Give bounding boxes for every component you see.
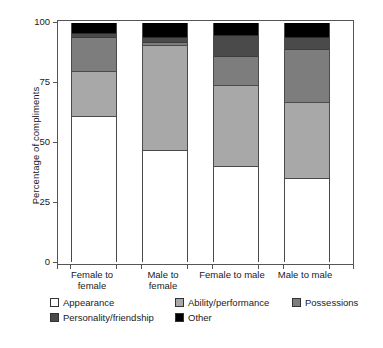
chart-legend: Appearance Ability/performance Possessio… [0,297,383,333]
segment-possessions [285,49,329,102]
segment-ability-performance [72,71,116,116]
legend-item-personality-friendship[interactable]: Personality/friendship [50,312,154,323]
bar-female-to-male[interactable] [213,23,259,262]
legend-swatch-other-icon [175,313,184,322]
y-tick-label-100: 100 [34,16,50,27]
x-label-male-to-female: Male to female [126,269,200,291]
x-label-line-1: Female to male [192,269,272,280]
bar-male-to-female[interactable] [142,23,188,262]
x-label-male-to-male: Male to male [265,269,345,280]
y-tick-label-25: 25 [39,196,50,207]
x-label-line-1: Male to male [265,269,345,280]
bars-container [58,23,353,262]
segment-appearance [214,166,258,262]
y-tick-100: 100 [0,22,57,23]
legend-label-possessions: Possessions [305,297,358,308]
segment-possessions [72,37,116,70]
x-label-line-2: female [55,280,129,291]
segment-appearance [143,150,187,262]
segment-personality-friendship [214,35,258,57]
segment-appearance [285,178,329,262]
legend-swatch-personality-icon [50,313,59,322]
plot-area [57,20,354,265]
segment-ability-performance [143,45,187,150]
stacked-bar-chart-figure: Percentage of compliments 100 75 50 25 0 [0,0,383,348]
y-tick-label-75: 75 [39,76,50,87]
segment-other [285,23,329,37]
segment-other [143,23,187,37]
segment-ability-performance [214,85,258,166]
legend-swatch-ability-icon [175,298,184,307]
legend-item-ability-performance[interactable]: Ability/performance [175,297,269,308]
legend-label-appearance: Appearance [63,297,114,308]
y-tick-label-50: 50 [39,136,50,147]
segment-ability-performance [285,102,329,178]
legend-item-appearance[interactable]: Appearance [50,297,114,308]
segment-other [72,23,116,33]
bar-female-to-female[interactable] [71,23,117,262]
legend-item-other[interactable]: Other [175,312,212,323]
legend-row-1: Appearance Ability/performance Possessio… [0,297,383,312]
legend-label-other: Other [188,312,212,323]
segment-possessions [214,56,258,85]
legend-label-personality-friendship: Personality/friendship [63,312,154,323]
x-label-female-to-male: Female to male [192,269,272,280]
legend-item-possessions[interactable]: Possessions [292,297,358,308]
x-tick-9 [353,265,354,269]
segment-other [214,23,258,35]
x-label-line-2: female [126,280,200,291]
y-tick-25: 25 [0,202,57,203]
legend-label-ability-performance: Ability/performance [188,297,269,308]
x-label-line-1: Male to [126,269,200,280]
legend-swatch-possessions-icon [292,298,301,307]
segment-appearance [72,116,116,262]
x-label-line-1: Female to [55,269,129,280]
y-tick-50: 50 [0,142,57,143]
legend-row-2: Personality/friendship Other [0,312,383,327]
y-tick-0: 0 [0,262,57,263]
bar-male-to-male[interactable] [284,23,330,262]
y-tick-75: 75 [0,82,57,83]
x-label-female-to-female: Female to female [55,269,129,291]
legend-swatch-appearance-icon [50,298,59,307]
y-tick-label-0: 0 [45,256,50,267]
segment-personality-friendship [285,37,329,49]
